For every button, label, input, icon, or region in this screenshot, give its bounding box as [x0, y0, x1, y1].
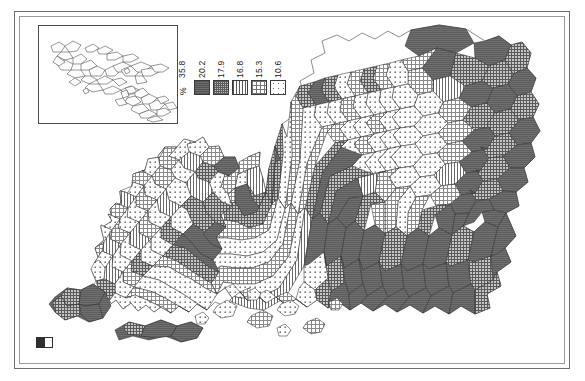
scale-bar-segment — [37, 338, 45, 347]
legend-break-0: 35.8 — [175, 38, 189, 78]
legend-swatch-class-1[interactable] — [194, 80, 210, 95]
map-figure: 35.8 20.2 17.9 16.8 15.3 10.6 % — [0, 0, 585, 381]
legend-break-4: 15.3 — [252, 38, 266, 78]
legend-break-1: 20.2 — [195, 38, 209, 78]
legend-labels: 35.8 20.2 17.9 16.8 15.3 10.6 — [176, 36, 286, 78]
legend-swatch-class-2[interactable] — [213, 80, 229, 95]
legend-swatch-class-4[interactable] — [251, 80, 267, 95]
legend-break-2: 17.9 — [214, 38, 228, 78]
scale-bar-segment — [45, 338, 52, 347]
legend-swatch-class-3[interactable] — [232, 80, 248, 95]
legend-unit-label: % — [176, 81, 190, 95]
legend-swatch-class-5[interactable] — [270, 80, 286, 95]
legend[interactable]: 35.8 20.2 17.9 16.8 15.3 10.6 % — [176, 36, 286, 102]
inset-islands — [39, 26, 178, 124]
scale-bar-icon — [36, 337, 53, 348]
legend-break-3: 16.8 — [233, 38, 247, 78]
legend-swatch-row: % — [176, 78, 286, 97]
island-inset[interactable] — [38, 25, 178, 124]
legend-break-5: 10.6 — [271, 38, 285, 78]
